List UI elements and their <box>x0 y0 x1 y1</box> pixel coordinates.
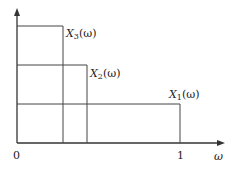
x1-arg: (ω) <box>182 88 200 101</box>
x-tick-label: 1 <box>177 150 184 161</box>
x-axis-label: ω <box>214 151 223 162</box>
x1-rect <box>17 104 180 143</box>
y-axis-arrow-icon <box>14 8 20 16</box>
x3-label: X3(ω) <box>66 28 97 41</box>
x3-rect <box>17 26 63 143</box>
x1-label: X1(ω) <box>169 89 200 102</box>
x3-name: X <box>66 27 74 40</box>
x1-name: X <box>169 88 177 101</box>
x2-arg: (ω) <box>103 67 121 80</box>
x3-arg: (ω) <box>79 27 97 40</box>
plot-canvas <box>0 0 237 170</box>
x2-name: X <box>90 67 98 80</box>
origin-label: 0 <box>13 150 20 161</box>
x-axis-arrow-icon <box>217 140 225 146</box>
x2-label: X2(ω) <box>90 68 121 81</box>
